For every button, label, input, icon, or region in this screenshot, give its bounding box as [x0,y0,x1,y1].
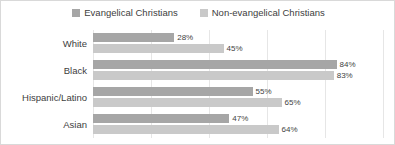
category-label: White [63,39,87,49]
category-label: Hispanic/Latino [22,93,87,103]
bar-group: 84% [93,60,383,69]
plot-area: White28%45%Black84%83%Hispanic/Latino55%… [93,30,383,138]
category-label: Black [64,66,87,76]
bar-value-label: 28% [177,34,193,42]
category-row: Hispanic/Latino55%65% [93,84,383,111]
category-label: Asian [63,120,87,130]
gridline [383,30,384,138]
bar[interactable] [93,114,229,123]
bar[interactable] [93,87,253,96]
bar[interactable] [93,44,224,53]
bar[interactable] [93,125,279,134]
bar-group: 65% [93,98,383,107]
bar-group: 83% [93,71,383,80]
bar-value-label: 84% [340,61,356,69]
category-row: Black84%83% [93,57,383,84]
bar[interactable] [93,71,334,80]
bar[interactable] [93,60,337,69]
bar-group: 55% [93,87,383,96]
chart-legend: Evangelical Christians Non-evangelical C… [1,8,395,18]
category-row: White28%45% [93,30,383,57]
legend-entry-non-evangelical-christians[interactable]: Non-evangelical Christians [200,8,325,18]
legend-label-non-evangelical-christians: Non-evangelical Christians [212,8,325,18]
legend-swatch-evangelical-christians [72,9,80,17]
legend-swatch-non-evangelical-christians [200,9,208,17]
bar-value-label: 45% [227,45,243,53]
bar-group: 28% [93,33,383,42]
bar-value-label: 47% [232,115,248,123]
bar[interactable] [93,98,282,107]
bar-chart: Evangelical Christians Non-evangelical C… [0,0,395,145]
legend-label-evangelical-christians: Evangelical Christians [84,8,177,18]
legend-entry-evangelical-christians[interactable]: Evangelical Christians [72,8,177,18]
bar-value-label: 83% [337,72,353,80]
bar-value-label: 55% [256,88,272,96]
bar-value-label: 64% [282,126,298,134]
bar[interactable] [93,33,174,42]
category-row: Asian47%64% [93,111,383,138]
bar-value-label: 65% [285,99,301,107]
category-rows: White28%45%Black84%83%Hispanic/Latino55%… [93,30,383,138]
bar-group: 64% [93,125,383,134]
bar-group: 45% [93,44,383,53]
bar-group: 47% [93,114,383,123]
